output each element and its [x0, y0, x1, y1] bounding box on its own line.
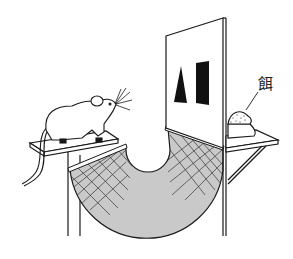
jumping-stand-figure: 餌: [0, 0, 293, 259]
food-shelf: [226, 92, 278, 184]
apparatus-drawing: [0, 0, 293, 259]
rectangle-stimulus: [196, 61, 209, 105]
bait-label: 餌: [258, 77, 273, 92]
food-dish: [228, 124, 255, 138]
